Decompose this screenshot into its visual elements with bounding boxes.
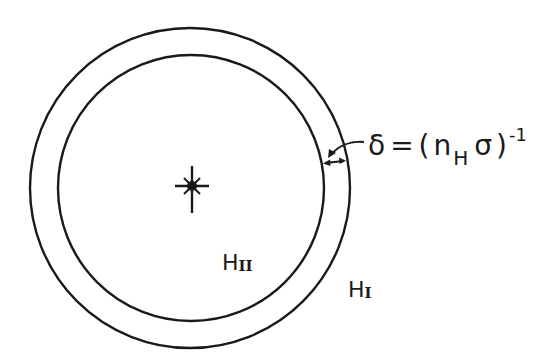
region-label-h-ii: HII [222,252,253,274]
shell-thickness-arrow [323,158,346,167]
density-subscript: H [453,146,468,170]
equals-sign: = [390,129,413,162]
region-h-i-numeral: I [365,284,372,302]
close-paren: ) [496,129,507,162]
density-n: n [434,129,452,162]
region-label-h-i: HI [348,279,372,301]
delta-symbol: δ [368,129,385,162]
open-paren: ( [419,129,430,162]
region-h-ii-prefix: H [222,250,239,275]
inverse-exponent: -1 [509,124,527,145]
star-icon [175,166,209,213]
cross-section-sigma: σ [474,129,492,162]
region-h-i-prefix: H [348,277,365,302]
stromgren-sphere-diagram [0,0,539,363]
shell-thickness-equation: δ=(nHσ)-1 [368,132,527,160]
region-h-ii-numeral: II [239,257,253,275]
